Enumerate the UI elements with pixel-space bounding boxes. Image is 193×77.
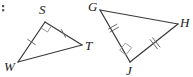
geometry-figure: W S T G H J: [0, 0, 193, 77]
tick-st-1: [61, 30, 65, 38]
vertex-label-w: W: [4, 59, 16, 74]
vertex-label-t: T: [85, 38, 93, 53]
triangle-gjh: G H J: [88, 0, 190, 77]
corner-mark-icon: [2, 5, 4, 7]
triangle-wst: W S T: [4, 2, 93, 74]
right-angle-marker-j: [120, 43, 132, 55]
side-gh: [100, 10, 178, 24]
corner-mark-icon: [2, 9, 4, 11]
vertex-label-j: J: [126, 63, 133, 77]
vertex-label-g: G: [88, 0, 98, 14]
tick-ws-1: [28, 39, 36, 44]
side-jh: [130, 24, 178, 62]
corner-mark-group: [2, 5, 4, 11]
figure-canvas: W S T G H J: [0, 0, 193, 77]
vertex-label-s: S: [39, 2, 46, 17]
vertex-label-h: H: [179, 15, 190, 30]
